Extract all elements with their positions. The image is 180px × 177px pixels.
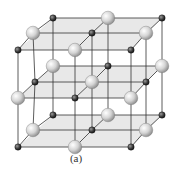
large-ion bbox=[155, 59, 169, 73]
small-ion bbox=[128, 144, 134, 150]
small-ion bbox=[50, 112, 56, 118]
large-ion bbox=[26, 26, 40, 40]
large-ion bbox=[101, 108, 115, 122]
small-ion bbox=[143, 79, 149, 85]
small-ion bbox=[15, 144, 21, 150]
small-ion bbox=[50, 15, 56, 21]
small-ion bbox=[159, 112, 165, 118]
ions bbox=[11, 11, 169, 154]
small-ion bbox=[105, 63, 111, 69]
large-ion bbox=[139, 26, 153, 40]
large-ion bbox=[46, 59, 60, 73]
large-ion bbox=[101, 11, 115, 25]
large-ion bbox=[26, 123, 40, 137]
large-ion bbox=[124, 91, 138, 105]
large-ion bbox=[11, 91, 25, 105]
crystal-lattice-diagram bbox=[0, 0, 180, 177]
large-ion bbox=[139, 123, 153, 137]
small-ion bbox=[32, 79, 38, 85]
small-ion bbox=[128, 47, 134, 53]
large-ion bbox=[68, 43, 82, 57]
small-ion bbox=[15, 47, 21, 53]
small-ion bbox=[72, 95, 78, 101]
small-ion bbox=[89, 30, 95, 36]
figure-caption: (a) bbox=[0, 152, 152, 164]
small-ion bbox=[89, 127, 95, 133]
small-ion bbox=[159, 15, 165, 21]
large-ion bbox=[85, 75, 99, 89]
